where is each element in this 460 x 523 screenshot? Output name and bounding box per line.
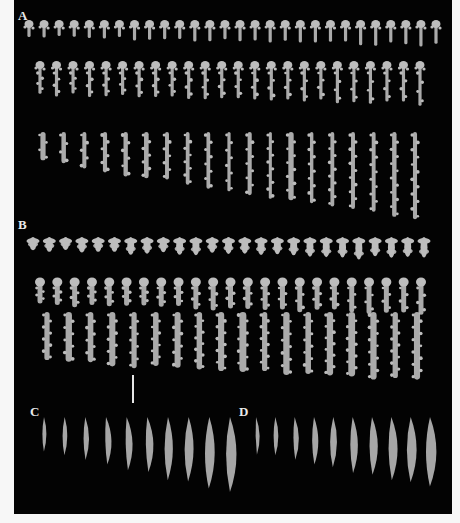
- sclerite: [286, 147, 289, 150]
- sclerite: [386, 249, 396, 254]
- sclerite: [280, 25, 283, 28]
- sclerite: [230, 172, 233, 175]
- sclerite: [175, 246, 185, 251]
- sclerite: [245, 281, 250, 309]
- sclerite: [346, 325, 349, 328]
- sclerite: [127, 141, 130, 144]
- sclerite: [336, 303, 340, 307]
- sclerite: [347, 287, 350, 290]
- sclerite: [307, 148, 311, 152]
- sclerite: [418, 238, 431, 244]
- sclerite: [127, 172, 131, 176]
- sclerite: [74, 77, 77, 80]
- sclerite: [390, 176, 393, 179]
- sclerite: [134, 66, 137, 69]
- sclerite: [412, 375, 415, 378]
- sclerite: [61, 241, 71, 246]
- sclerite: [325, 25, 328, 28]
- sclerite: [210, 170, 213, 173]
- sclerite: [355, 319, 358, 322]
- sclerite: [266, 133, 269, 136]
- sclerite: [266, 331, 269, 334]
- sclerite: [364, 287, 367, 290]
- sclerite: [200, 66, 203, 69]
- sclerite: [397, 331, 400, 334]
- sclerite: [208, 298, 211, 301]
- sclerite: [71, 357, 75, 361]
- sclerite: [338, 97, 341, 100]
- sclerite: [111, 300, 114, 303]
- sclerite: [204, 177, 207, 180]
- sclerite: [42, 417, 46, 451]
- sclerite: [117, 66, 120, 69]
- sclerite: [396, 141, 399, 144]
- sclerite: [333, 140, 336, 143]
- sclerite: [399, 71, 403, 75]
- sclerite: [404, 79, 407, 82]
- sclerite: [151, 338, 154, 341]
- sclerite: [412, 326, 415, 329]
- sclerite: [310, 25, 313, 28]
- sclerite: [84, 417, 89, 460]
- sclerite: [263, 281, 268, 310]
- sclerite: [201, 365, 204, 368]
- sclerite: [123, 89, 126, 92]
- sclerite: [44, 243, 54, 248]
- sclerite: [175, 67, 178, 70]
- sclerite: [173, 90, 176, 93]
- sclerite: [389, 417, 398, 480]
- sclerite: [245, 343, 248, 346]
- panel-label-d: D: [239, 404, 248, 420]
- sclerite: [63, 417, 68, 455]
- sclerite: [251, 184, 254, 187]
- sclerite: [329, 24, 332, 42]
- sclerite: [371, 294, 374, 297]
- sclerite: [212, 26, 215, 29]
- sclerite: [286, 175, 289, 178]
- sclerite: [38, 281, 43, 304]
- sclerite: [131, 312, 136, 368]
- sclerite: [390, 205, 393, 208]
- sclerite: [369, 192, 372, 195]
- sclerite: [271, 167, 274, 170]
- sclerite: [416, 90, 419, 93]
- sclerite: [158, 344, 161, 347]
- sclerite: [189, 238, 202, 244]
- sclerite: [80, 164, 84, 168]
- sclerite: [334, 154, 337, 157]
- sclerite: [225, 179, 228, 182]
- sclerite: [207, 244, 217, 249]
- sclerite: [107, 325, 111, 329]
- sclerite: [392, 132, 396, 217]
- sclerite: [381, 300, 384, 303]
- sclerite: [146, 417, 154, 472]
- sclerite: [266, 343, 269, 346]
- sclerite: [107, 281, 112, 306]
- sclerite: [225, 149, 228, 152]
- sclerite: [281, 314, 284, 317]
- sclerite: [223, 319, 227, 323]
- sclerite: [246, 320, 249, 323]
- sclerite: [408, 26, 411, 29]
- sclerite: [416, 185, 420, 189]
- sclerite: [218, 72, 221, 75]
- sclerite: [328, 161, 332, 165]
- sclerite: [355, 80, 358, 83]
- sclerite: [223, 24, 226, 39]
- sclerite: [251, 155, 254, 158]
- sclerite: [129, 364, 132, 367]
- sclerite: [123, 132, 127, 177]
- sclerite: [410, 192, 414, 196]
- sclerite: [139, 286, 142, 289]
- sclerite: [405, 293, 408, 296]
- sclerite: [216, 325, 219, 328]
- panel-label-a: A: [18, 8, 27, 24]
- sclerite: [202, 86, 205, 89]
- sclerite: [371, 307, 374, 310]
- sclerite: [310, 370, 313, 373]
- sclerite: [237, 326, 240, 329]
- sclerite: [314, 24, 317, 43]
- sclerite: [230, 187, 233, 190]
- sclerite: [403, 248, 413, 253]
- sclerite: [421, 99, 424, 102]
